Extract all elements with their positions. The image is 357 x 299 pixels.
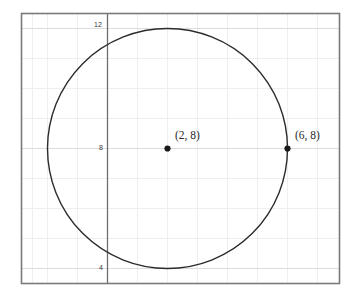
radius-point-marker [284, 145, 290, 151]
radius-point-label: (6, 8) [295, 130, 320, 142]
center-point-marker [164, 145, 170, 151]
y-axis-tick-label-12: 12 [94, 21, 102, 28]
center-point-label: (2, 8) [175, 130, 200, 142]
y-axis-tick-label-8: 8 [99, 144, 103, 151]
y-axis-tick-label-4: 4 [99, 264, 103, 271]
circle-graph-figure: 12 8 4 (2, 8) (6, 8) [0, 0, 357, 299]
coordinate-plane-svg [0, 0, 357, 299]
